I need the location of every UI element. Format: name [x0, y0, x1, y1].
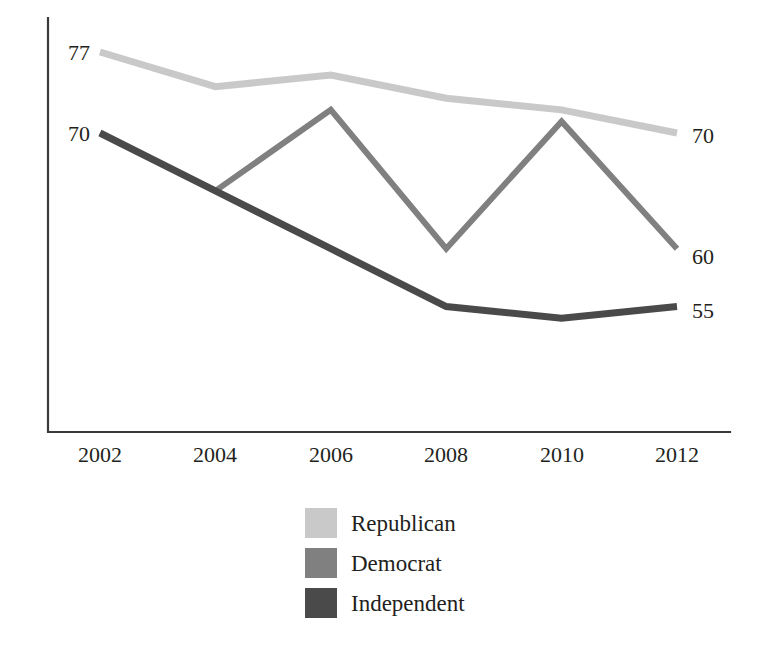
- end-value-label-democrat: 60: [692, 244, 714, 269]
- chart-legend: Republican Democrat Independent: [305, 508, 465, 618]
- series-line-independent: [100, 133, 677, 318]
- legend-label-republican: Republican: [351, 512, 456, 535]
- start-value-label-independent: 70: [68, 121, 90, 146]
- x-tick-label-2006: 2006: [309, 442, 353, 467]
- x-tick-label-2008: 2008: [424, 442, 468, 467]
- x-tick-label-2012: 2012: [655, 442, 699, 467]
- legend-item-republican[interactable]: Republican: [305, 508, 465, 538]
- legend-label-democrat: Democrat: [351, 552, 442, 575]
- legend-swatch-republican: [305, 508, 337, 538]
- line-chart: 2002 2004 2006 2008 2010 2012 77 70 70 6…: [0, 0, 771, 672]
- legend-label-independent: Independent: [351, 592, 465, 615]
- legend-item-independent[interactable]: Independent: [305, 588, 465, 618]
- x-tick-label-2004: 2004: [193, 442, 237, 467]
- x-tick-label-2010: 2010: [540, 442, 584, 467]
- end-value-label-republican: 70: [692, 123, 714, 148]
- x-tick-label-2002: 2002: [78, 442, 122, 467]
- legend-swatch-democrat: [305, 548, 337, 578]
- start-value-label-republican: 77: [68, 40, 90, 65]
- legend-swatch-independent: [305, 588, 337, 618]
- series-line-republican: [100, 52, 677, 133]
- end-value-label-independent: 55: [692, 298, 714, 323]
- chart-axes: [48, 18, 730, 432]
- legend-item-democrat[interactable]: Democrat: [305, 548, 465, 578]
